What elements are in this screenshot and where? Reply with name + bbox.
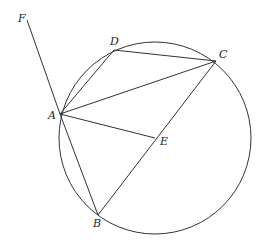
segment-AE [60,114,155,138]
segment-BC [98,61,216,215]
label-C: C [219,48,228,61]
segment-DC [114,50,216,61]
segment-FA [27,20,60,114]
label-E: E [159,135,168,148]
segment-AC [60,61,216,114]
segment-AB [60,114,98,215]
label-D: D [109,35,119,48]
geometry-diagram: F D C A E B [0,0,274,247]
label-A: A [47,109,56,122]
label-F: F [17,12,26,25]
label-B: B [92,217,101,230]
